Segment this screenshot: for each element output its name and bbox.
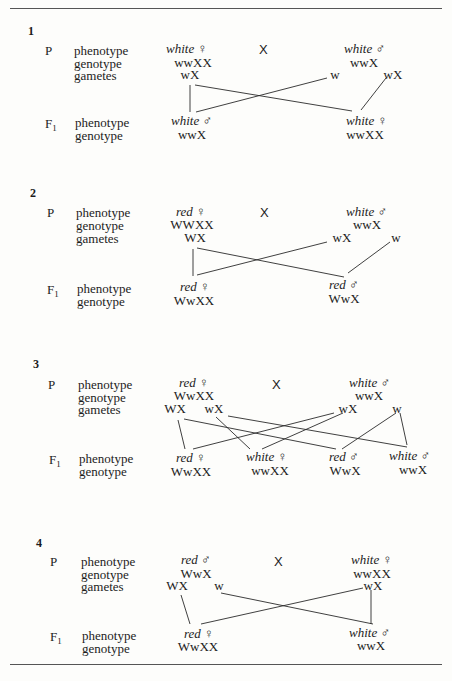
gamete: w [214, 579, 223, 592]
p-generation-label: P [48, 378, 55, 391]
offspring-genotype: wwXX [346, 128, 384, 141]
offspring-genotype: WwX [328, 292, 359, 305]
gametes-label: gametes [81, 580, 124, 593]
offspring-genotype: WwXX [171, 465, 211, 478]
parent-male-genotype: wwX [353, 218, 381, 231]
male-icon: ♂ [349, 277, 359, 292]
f1-generation-label: F1 [45, 117, 57, 135]
parent-male-genotype: wwX [350, 56, 378, 69]
cross-symbol: X [274, 555, 283, 568]
offspring-phenotype: white ♀ [346, 114, 387, 127]
male-icon: ♂ [420, 448, 430, 463]
gamete: wX [364, 579, 383, 592]
f1-generation-label: F1 [50, 630, 62, 648]
cross-number: 3 [33, 358, 39, 371]
gamete: wX [181, 68, 200, 81]
offspring-genotype: WwXX [174, 294, 214, 307]
female-icon: ♀ [277, 449, 287, 464]
offspring-genotype: WwX [329, 464, 360, 477]
female-icon: ♀ [377, 113, 387, 128]
genotype-label: genotype [75, 129, 123, 142]
f1-generation-label: F1 [49, 453, 61, 471]
p-generation-label: P [45, 44, 52, 57]
cross-number: 4 [36, 537, 42, 550]
gamete: wX [333, 231, 352, 244]
p-generation-label: P [47, 206, 54, 219]
gametes-label: gametes [76, 232, 119, 245]
f1-generation-label: F1 [47, 283, 59, 301]
offspring-phenotype: white ♂ [389, 449, 430, 462]
cross-symbol: X [259, 43, 268, 56]
offspring-genotype: wwX [178, 128, 206, 141]
parent-male-genotype: wwX [355, 389, 383, 402]
gamete: w [330, 68, 339, 81]
offspring-phenotype: white ♂ [171, 114, 212, 127]
genotype-label: genotype [79, 465, 127, 478]
gametes-label: gametes [78, 403, 121, 416]
male-icon: ♂ [201, 552, 211, 567]
cross-symbol: X [272, 378, 281, 391]
gamete: w [391, 231, 400, 244]
male-icon: ♂ [202, 113, 212, 128]
p-generation-label: P [50, 555, 57, 568]
female-icon: ♀ [200, 279, 210, 294]
gametes-label: gametes [74, 69, 117, 82]
genotype-label: genotype [77, 295, 125, 308]
offspring-genotype: wwX [357, 639, 385, 652]
female-icon: ♀ [196, 450, 206, 465]
offspring-phenotype: red ♂ [329, 450, 359, 463]
gamete: WX [184, 231, 206, 244]
offspring-phenotype: white ♀ [246, 450, 287, 463]
offspring-phenotype: red ♂ [329, 278, 359, 291]
genotype-label: genotype [82, 642, 130, 655]
male-icon: ♂ [375, 41, 385, 56]
gamete: wX [384, 68, 403, 81]
gamete: WX [164, 402, 186, 415]
gamete: WX [166, 579, 188, 592]
parent-male-phenotype: red ♂ [181, 553, 211, 566]
parent-female-phenotype: white ♀ [166, 42, 207, 55]
offspring-genotype: wwX [399, 463, 427, 476]
parent-male-phenotype: white ♂ [344, 42, 385, 55]
offspring-phenotype: red ♀ [180, 280, 210, 293]
offspring-genotype: wwXX [251, 464, 289, 477]
female-icon: ♀ [382, 552, 392, 567]
cross-number: 2 [30, 187, 36, 200]
gamete: wX [339, 402, 358, 415]
gamete: wX [205, 402, 224, 415]
offspring-genotype: WwXX [178, 640, 218, 653]
offspring-phenotype: red ♀ [176, 451, 206, 464]
gamete: w [392, 402, 401, 415]
male-icon: ♂ [349, 449, 359, 464]
parent-female-phenotype: white ♀ [351, 553, 392, 566]
cross-number: 1 [28, 25, 34, 38]
cross-symbol: X [260, 206, 269, 219]
female-icon: ♀ [197, 41, 207, 56]
